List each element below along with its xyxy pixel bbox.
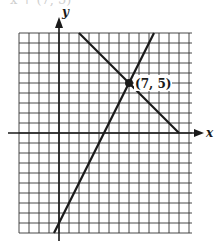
y-axis-label: y: [61, 5, 70, 19]
intersection-label: (7, 5): [135, 77, 171, 91]
x-axis-arrow-icon: [194, 129, 204, 137]
coordinate-plane: x y (7, 5): [0, 0, 215, 242]
intersection-point: [125, 79, 133, 87]
x-axis-label: x: [205, 126, 214, 140]
